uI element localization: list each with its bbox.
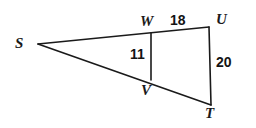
vertex-label-v: V xyxy=(141,83,151,98)
measure-label-wv: 11 xyxy=(130,47,145,61)
vertex-label-t: T xyxy=(205,106,214,121)
vertex-label-u: U xyxy=(216,12,227,27)
measure-label-ut: 20 xyxy=(216,55,232,69)
measure-label-wu: 18 xyxy=(170,13,186,27)
geometry-figure: S W U V T 18 11 20 xyxy=(0,0,256,128)
segment-SU xyxy=(38,27,209,44)
segment-ST xyxy=(38,44,211,105)
vertex-label-w: W xyxy=(140,14,153,29)
segment-UT xyxy=(209,27,211,105)
vertex-label-s: S xyxy=(15,36,23,51)
